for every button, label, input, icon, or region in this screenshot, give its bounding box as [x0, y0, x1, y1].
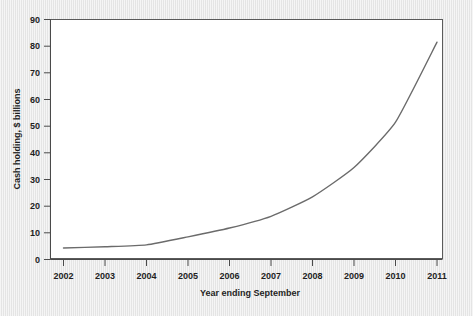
- x-tick-label: 2004: [136, 271, 156, 281]
- y-tick-label: 0: [35, 255, 40, 265]
- y-axis-ticks: [44, 20, 51, 260]
- y-tick-label: 90: [30, 15, 40, 25]
- x-tick-label: 2003: [95, 271, 115, 281]
- y-tick-label: 40: [30, 148, 40, 158]
- x-tick-label: 2007: [261, 271, 281, 281]
- y-tick-label: 50: [30, 121, 40, 131]
- y-tick-label: 20: [30, 201, 40, 211]
- x-tick-label: 2005: [178, 271, 198, 281]
- line-chart-figure: 0 10 20 30 40 50 60 70 80 90 2002 200: [0, 0, 473, 316]
- x-axis-title: Year ending September: [200, 288, 301, 298]
- x-axis-tick-labels: 2002 2003 2004 2005 2006 2007 2008 2009 …: [53, 271, 446, 281]
- y-axis-title: Cash holding, $ billions: [12, 88, 22, 189]
- y-tick-label: 60: [30, 95, 40, 105]
- chart-canvas: 0 10 20 30 40 50 60 70 80 90 2002 200: [0, 0, 473, 316]
- x-tick-label: 2011: [427, 271, 447, 281]
- x-tick-label: 2008: [302, 271, 322, 281]
- y-axis-tick-labels: 0 10 20 30 40 50 60 70 80 90: [30, 15, 40, 265]
- x-tick-label: 2010: [385, 271, 405, 281]
- x-tick-label: 2002: [53, 271, 73, 281]
- x-tick-label: 2009: [344, 271, 364, 281]
- y-tick-label: 70: [30, 68, 40, 78]
- y-tick-label: 80: [30, 41, 40, 51]
- y-tick-label: 30: [30, 175, 40, 185]
- x-tick-label: 2006: [219, 271, 239, 281]
- x-axis-ticks: [64, 260, 438, 267]
- y-tick-label: 10: [30, 228, 40, 238]
